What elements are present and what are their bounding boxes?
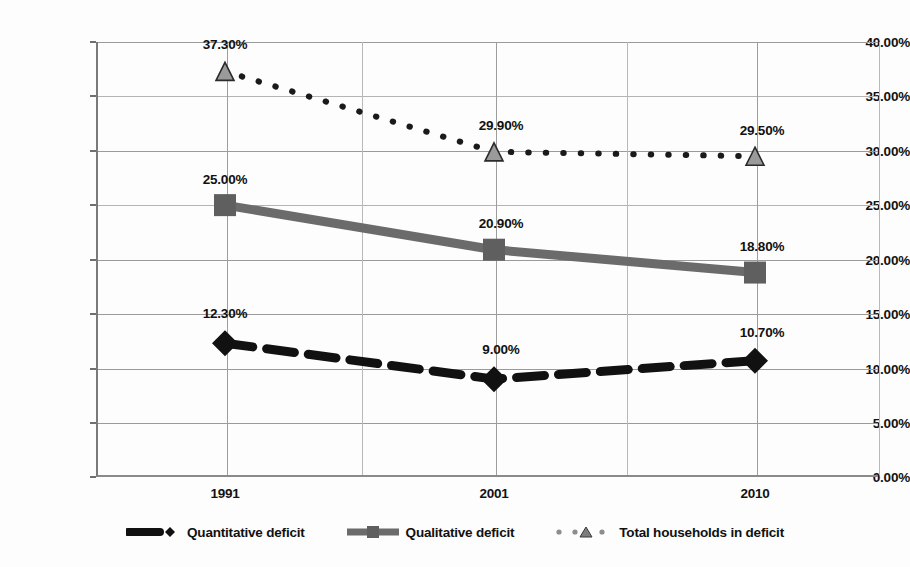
- line-chart: 40.00% 35.00% 30.00% 25.00% 20.00% 15.00…: [0, 0, 910, 567]
- x-axis-label: 2001: [479, 486, 508, 501]
- gridline-vertical: [227, 42, 228, 475]
- gridline-horizontal: [98, 260, 878, 261]
- x-axis-label: 2010: [740, 486, 769, 501]
- gridline-horizontal: [98, 369, 878, 370]
- gridline-vertical: [879, 42, 880, 475]
- gridline-horizontal: [98, 205, 878, 206]
- plot-area: [96, 42, 878, 477]
- gridline-horizontal: [98, 151, 878, 152]
- gridline-vertical: [362, 42, 363, 475]
- gridline-horizontal: [98, 96, 878, 97]
- gridline-vertical: [757, 42, 758, 475]
- data-label: 10.70%: [740, 325, 785, 340]
- legend-item-qualitative-deficit[interactable]: Qualitative deficit: [345, 523, 515, 541]
- legend-label: Total households in deficit: [619, 525, 784, 540]
- gridline-horizontal: [98, 423, 878, 424]
- data-label: 29.50%: [740, 123, 785, 138]
- data-label: 20.90%: [479, 216, 524, 231]
- data-label: 18.80%: [740, 239, 785, 254]
- data-label: 25.00%: [203, 172, 248, 187]
- square-icon: [345, 523, 401, 541]
- data-label: 37.30%: [203, 37, 248, 52]
- gridline-vertical: [627, 42, 628, 475]
- gridline-vertical: [496, 42, 497, 475]
- data-label: 29.90%: [479, 118, 524, 133]
- data-label: 9.00%: [482, 342, 519, 357]
- x-axis-label: 1991: [210, 486, 239, 501]
- chart-legend: Quantitative deficit Qualitative deficit…: [0, 515, 910, 549]
- triangle-icon: [554, 523, 614, 541]
- legend-item-quantitative-deficit[interactable]: Quantitative deficit: [126, 523, 305, 541]
- data-label: 12.30%: [203, 306, 248, 321]
- diamond-icon: [126, 523, 182, 541]
- legend-label: Quantitative deficit: [187, 525, 305, 540]
- legend-label: Qualitative deficit: [406, 525, 515, 540]
- legend-item-total-households-in-deficit[interactable]: Total households in deficit: [554, 523, 784, 541]
